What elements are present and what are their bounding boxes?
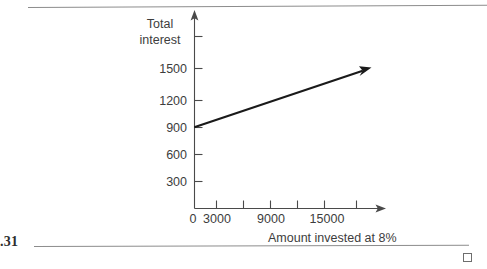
graph-svg: 300 600 900 1200 1500 Total interest 0 3… [0,0,487,269]
y-tick-label-1200: 1200 [159,94,187,108]
y-axis-title-line1: Total [147,17,173,31]
x-tick-label-0: 0 [190,212,197,226]
page-folio: .31 [0,234,18,250]
data-series-line [195,71,362,127]
y-tick-label-300: 300 [166,175,187,189]
y-tick-label-600: 600 [166,148,187,162]
y-axis-title-line2: interest [140,33,182,47]
corner-square-mark [463,253,472,262]
x-tick-label-15000: 15000 [310,212,345,226]
x-tick-label-9000: 9000 [257,212,285,226]
y-tick-label-1500: 1500 [159,62,187,76]
x-axis-title: Amount invested at 8% [268,231,397,245]
x-tick-label-3000: 3000 [203,212,231,226]
figure-graph: 300 600 900 1200 1500 Total interest 0 3… [0,0,487,269]
y-tick-label-900: 900 [166,121,187,135]
